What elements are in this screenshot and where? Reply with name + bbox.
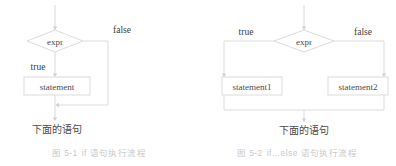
flowchart-figure-pair: expr true false statement 下面的语句 图 5-1if … <box>0 0 396 166</box>
if-else-flowchart-svg: expr true false statement1 statement2 下面… <box>198 0 396 146</box>
process-label-statement1: statement1 <box>233 82 272 92</box>
if-flowchart-svg: expr true false statement 下面的语句 <box>0 0 198 146</box>
process-label-statement2: statement2 <box>339 82 378 92</box>
figure-caption-if: 图 5-1if 语句执行流程 <box>0 146 198 158</box>
branch-label-false: false <box>354 27 372 37</box>
figure-if-else-statement: expr true false statement1 statement2 下面… <box>198 0 396 166</box>
branch-label-false: false <box>113 25 131 35</box>
branch-label-true: true <box>239 27 254 37</box>
true-branch-path <box>224 41 274 76</box>
figure-caption-title: if 语句执行流程 <box>82 148 146 158</box>
merge-path <box>224 95 384 110</box>
branch-label-true: true <box>31 62 46 72</box>
figure-caption-title: if…else 语句执行流程 <box>267 148 357 158</box>
process-label-statement: statement <box>40 82 75 92</box>
exit-label: 下面的语句 <box>279 124 329 136</box>
figure-caption-if-else: 图 5-2if…else 语句执行流程 <box>198 146 396 158</box>
false-branch-path <box>334 41 384 76</box>
figure-caption-number: 图 5-1 <box>52 148 78 158</box>
figure-if-statement: expr true false statement 下面的语句 图 5-1if … <box>0 0 198 166</box>
decision-label-expr: expr <box>47 37 63 47</box>
figure-caption-number: 图 5-2 <box>237 148 263 158</box>
exit-label: 下面的语句 <box>32 123 82 135</box>
decision-label-expr: expr <box>296 37 312 47</box>
